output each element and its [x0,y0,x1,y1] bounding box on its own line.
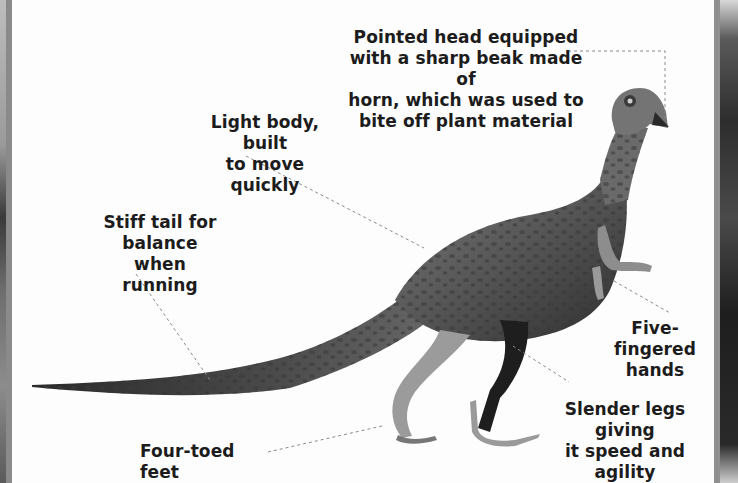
label-tail: Stiff tail for balance when running [95,212,225,296]
label-head: Pointed head equipped with a sharp beak … [346,27,586,132]
label-feet: Four-toed feet [140,441,270,483]
rear-leg-shape [392,330,470,438]
leader-line-hands [614,281,670,313]
diagram-page: Pointed head equipped with a sharp beak … [0,0,738,483]
leader-line-feet [268,426,382,452]
head-shape [612,88,668,135]
label-body: Light body, built to move quickly [195,112,335,196]
label-legs: Slender legs giving it speed and agility [540,399,710,483]
label-hands: Five-fingered hands [595,318,715,381]
